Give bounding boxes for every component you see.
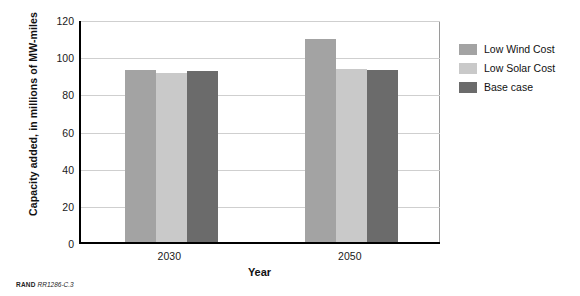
plot-area [79,21,440,244]
y-tick-label-120: 120 [40,15,74,27]
legend-item-low-solar-cost: Low Solar Cost [459,61,577,75]
y-tick-label-60: 60 [40,127,74,139]
caption-number: RR1286-C.3 [38,281,74,288]
y-tick-label-20: 20 [40,201,74,213]
y-axis-title: Capacity added, in millions of MW-miles [27,0,39,229]
legend-label: Low Wind Cost [484,43,555,55]
bar-2050-low-wind-cost [305,39,336,242]
legend-swatch-icon [459,44,477,55]
x-tick-label-2050: 2050 [310,250,390,262]
legend-swatch-icon [459,63,477,74]
source-caption: RANDRR1286-C.3 [16,281,74,288]
legend-label: Base case [484,81,533,93]
chart-figure: Capacity added, in millions of MW-miles … [0,0,580,296]
bar-2030-low-solar-cost [156,73,187,242]
legend-item-base-case: Base case [459,80,577,94]
x-tick-label-2030: 2030 [129,250,209,262]
bar-2030-base-case [187,71,218,242]
bar-2050-base-case [367,70,398,242]
x-axis-title: Year [79,266,440,278]
bar-2030-low-wind-cost [125,70,156,242]
gridline-120 [81,21,440,22]
legend: Low Wind CostLow Solar CostBase case [459,42,577,99]
plot-right-border [439,21,440,242]
bar-2050-low-solar-cost [336,69,367,242]
legend-label: Low Solar Cost [484,62,555,74]
caption-org: RAND [16,281,36,288]
y-tick-label-40: 40 [40,164,74,176]
legend-swatch-icon [459,82,477,93]
y-tick-label-0: 0 [40,238,74,250]
gridline-100 [81,58,440,59]
legend-item-low-wind-cost: Low Wind Cost [459,42,577,56]
y-tick-label-100: 100 [40,52,74,64]
y-tick-label-80: 80 [40,89,74,101]
